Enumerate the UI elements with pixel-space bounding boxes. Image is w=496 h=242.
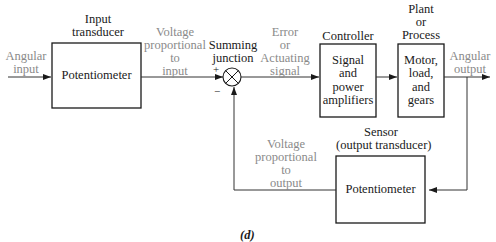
label-line: amplifiers [323, 94, 374, 108]
sensor-body: Potentiometer [336, 156, 425, 223]
sensor-title: Sensor (output transducer) [336, 126, 426, 152]
label-line: and [412, 81, 430, 95]
plant-body: Motor, load, and gears [398, 44, 444, 117]
controller-title: Controller [316, 30, 380, 43]
voltage-output-label: Voltage proportional to output [254, 138, 318, 190]
label-line: Process [396, 29, 446, 42]
label-line: input [4, 63, 48, 76]
label-line: output [446, 63, 494, 76]
label-line: Signal [332, 54, 364, 68]
label-line: Potentiometer [345, 183, 415, 197]
controller-body: Signal and power amplifiers [320, 44, 376, 117]
minus-sign: − [214, 85, 220, 98]
label-line: Controller [316, 30, 380, 43]
label-line: load, [409, 67, 434, 81]
plant-title: Plant or Process [396, 3, 446, 42]
label-line: and [339, 67, 357, 81]
label-line: gears [408, 94, 434, 108]
plus-sign: + [213, 63, 219, 76]
label-line: output [254, 177, 318, 190]
label-line: (output transducer) [336, 139, 426, 152]
figure-caption: (d) [240, 229, 255, 242]
error-signal-label: Error or Actuating signal [255, 26, 315, 78]
label-line: Potentiometer [61, 69, 131, 83]
angular-input-label: Angular input [4, 50, 48, 76]
angular-output-label: Angular output [446, 50, 494, 76]
voltage-input-label: Voltage proportional to input [143, 26, 207, 78]
summing-junction-title: Summing junction [204, 39, 262, 65]
label-line: Motor, [404, 54, 438, 68]
label-line: power [332, 81, 363, 95]
input-transducer-body: Potentiometer [52, 43, 141, 108]
label-line: signal [255, 65, 315, 78]
label-line: transducer [66, 26, 130, 39]
input-transducer-title: Input transducer [66, 13, 130, 39]
label-line: input [143, 65, 207, 78]
